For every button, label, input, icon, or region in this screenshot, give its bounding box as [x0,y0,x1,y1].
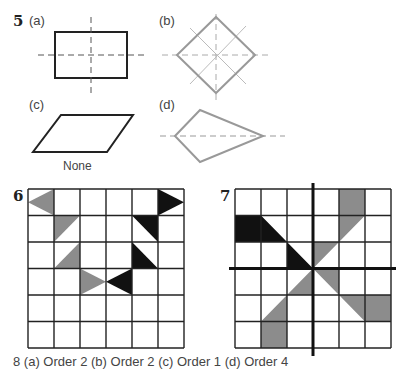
answer-line-8: 8 (a) Order 2 (b) Order 2 (c) Order 1 (d… [13,354,288,369]
parallelogram-figure [33,115,133,152]
rectangle-figure [38,17,144,94]
grid-7-axes [229,183,396,356]
kite-figure [160,110,285,162]
square-figure [162,14,268,100]
